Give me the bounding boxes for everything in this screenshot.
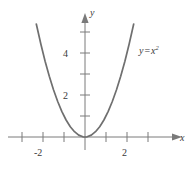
y-axis-label: y: [90, 8, 94, 18]
x-tick-label-pos2: 2: [122, 148, 127, 158]
equation-exponent: 2: [156, 44, 159, 51]
y-axis-arrow-icon: [81, 13, 88, 23]
y-tick-label-2: 2: [63, 91, 68, 101]
curve-equation-annotation: y=x2: [139, 46, 159, 56]
plot-canvas: [0, 0, 195, 170]
parabola-figure: -2 2 2 4 y x y=x2: [0, 0, 195, 170]
x-axis-label: x: [180, 133, 184, 143]
x-tick-label-neg2: -2: [34, 148, 42, 158]
equation-operator: =: [143, 45, 151, 56]
y-tick-label-4: 4: [63, 49, 68, 59]
